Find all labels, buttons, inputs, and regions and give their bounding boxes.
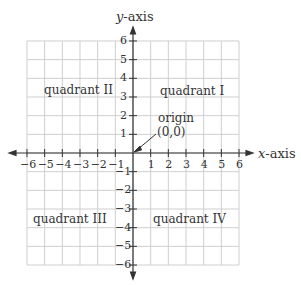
x-tick-label: 6: [236, 159, 243, 170]
x-tick-label: −6: [20, 159, 36, 170]
quadrant-ii-label: quadrant II: [44, 84, 113, 96]
y-tick-label: −6: [115, 259, 131, 270]
y-tick-label: −2: [115, 184, 131, 195]
x-tick-label: 4: [201, 159, 208, 170]
y-tick-label: −1: [115, 166, 131, 177]
x-tick-label: −3: [73, 159, 89, 170]
x-tick-label: 3: [183, 159, 190, 170]
y-tick-label: 1: [120, 128, 127, 139]
y-tick-label: −3: [115, 203, 131, 214]
y-tick-label: −5: [115, 240, 131, 251]
quadrant-i-label: quadrant I: [160, 85, 224, 97]
y-tick-label: 5: [120, 54, 127, 65]
y-tick-label: 6: [120, 35, 127, 46]
quadrant-iv-label: quadrant IV: [153, 213, 226, 225]
x-tick-label: −4: [55, 159, 71, 170]
x-tick-label: −2: [91, 159, 107, 170]
x-tick-label: −5: [38, 159, 54, 170]
y-tick-label: 3: [120, 91, 127, 102]
x-axis-suffix: -axis: [265, 146, 295, 161]
quadrant-iii-label: quadrant III: [33, 213, 107, 225]
y-tick-label: 2: [120, 110, 127, 121]
x-tick-label: 1: [148, 159, 155, 170]
y-tick-label: 4: [120, 72, 127, 83]
y-tick-label: −4: [115, 222, 131, 233]
x-tick-label: 2: [165, 159, 172, 170]
coordinate-plane: [0, 0, 301, 285]
x-axis-line: [9, 151, 253, 156]
x-axis-label: x-axis: [258, 147, 296, 160]
origin-arrow: [134, 134, 156, 152]
y-axis-suffix: -axis: [123, 9, 153, 24]
origin-label: origin: [158, 112, 194, 124]
y-axis-label: y-axis: [116, 10, 154, 23]
x-tick-label: 5: [218, 159, 225, 170]
origin-coords: (0,0): [157, 126, 185, 138]
